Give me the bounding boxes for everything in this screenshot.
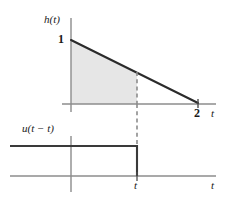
u-of-t-minus-tau-label: u(t − t) bbox=[22, 123, 54, 134]
y-tick-label-one: 1 bbox=[58, 33, 64, 45]
top-x-axis-label: t bbox=[211, 108, 214, 119]
step-function-line bbox=[10, 146, 137, 176]
figure-container: h(t) 1 2 t u(t − t) t t bbox=[0, 0, 228, 200]
x-tick-label-t-bottom: t bbox=[134, 180, 137, 191]
h-of-t-label: h(t) bbox=[44, 14, 60, 25]
x-tick-label-two: 2 bbox=[194, 107, 200, 119]
figure-canvas bbox=[0, 0, 228, 200]
bottom-x-axis-label: t bbox=[211, 180, 214, 191]
shaded-area-under-h bbox=[71, 40, 137, 104]
